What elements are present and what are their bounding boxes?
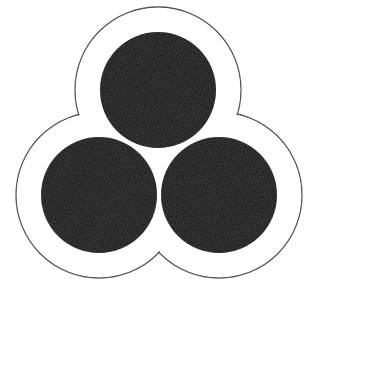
circle-top [100, 32, 216, 148]
trefoil-canvas: Trefoil emblem: three overlapping black … [0, 0, 365, 367]
circle-bottom-left [41, 137, 157, 253]
trefoil-emblem [0, 0, 365, 367]
circle-bottom-right [161, 137, 277, 253]
